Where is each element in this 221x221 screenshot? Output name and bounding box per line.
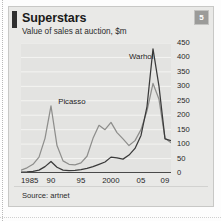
y-tick-label: 300 — [177, 82, 190, 90]
y-tick-label: 150 — [177, 126, 190, 134]
x-tick-label: 05 — [137, 176, 146, 185]
x-tick-label: 09 — [161, 176, 170, 185]
y-tick-label: 350 — [177, 68, 190, 76]
x-tick-label: 2000 — [102, 176, 119, 185]
x-tick-label: 90 — [47, 176, 56, 185]
y-tick-label: 250 — [177, 97, 190, 105]
chart-svg — [21, 43, 171, 173]
page-title: Superstars — [22, 11, 86, 25]
plot-canvas — [21, 43, 171, 173]
chart-number-badge: 5 — [195, 11, 208, 24]
y-tick-label: 450 — [177, 39, 190, 47]
x-tick-label: 95 — [77, 176, 86, 185]
page-guide-left — [2, 0, 3, 221]
footer-divider — [14, 186, 208, 187]
page-root: Superstars Value of sales at auction, $m… — [0, 0, 221, 221]
y-tick-label: 200 — [177, 111, 190, 119]
chart-source: Source: artnet — [22, 191, 70, 200]
plot-area: 050100150200250300350400450 198590952000… — [21, 43, 202, 183]
page-ghost-text — [8, 211, 218, 221]
chart-subtitle: Value of sales at auction, $m — [22, 26, 127, 37]
x-tick-label: 1985 — [21, 176, 38, 185]
series-label-warhol: Warhol — [129, 52, 153, 61]
y-tick-label: 400 — [177, 53, 190, 61]
series-label-picasso: Picasso — [58, 97, 85, 106]
title-accent-bar — [12, 11, 17, 28]
y-tick-label: 100 — [177, 140, 190, 148]
chart-card: Superstars Value of sales at auction, $m… — [8, 6, 214, 207]
y-axis-labels: 050100150200250300350400450 — [173, 43, 203, 173]
y-tick-label: 50 — [177, 155, 185, 163]
x-axis-labels: 1985909520000509 — [21, 176, 202, 190]
